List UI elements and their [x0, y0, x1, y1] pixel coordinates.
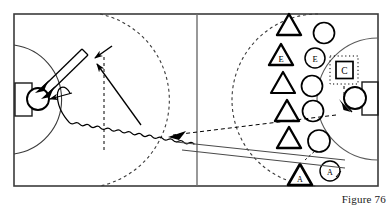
triangle-marker-6-A: A	[288, 164, 312, 185]
circle-label-A: A	[327, 168, 333, 177]
dribble-arrowhead	[95, 46, 112, 58]
triangle-label-A: A	[297, 175, 303, 184]
circle-marker-3	[302, 76, 323, 97]
left-shooting-circle-dashed	[100, 14, 169, 186]
circle-marker-1	[314, 23, 335, 44]
triangle-marker-1	[277, 14, 301, 35]
triangle-marker-4	[275, 100, 299, 121]
circle-label-E: E	[312, 54, 317, 64]
coach-box: C	[330, 56, 358, 84]
coach-label: C	[341, 66, 347, 76]
triangle-marker-5	[277, 127, 301, 148]
right-goalkeeper	[344, 87, 366, 109]
circle-marker-6-A: A	[320, 161, 340, 181]
figure-caption: Figure 76	[342, 193, 386, 205]
circle-marker-5	[308, 130, 330, 152]
figure-container: E A E	[0, 0, 392, 207]
triangle-label-E: E	[278, 54, 283, 64]
triangle-marker-3	[271, 72, 295, 93]
triangle-marker-2-E: E	[269, 44, 293, 65]
circle-marker-2-E: E	[305, 48, 325, 68]
tactical-diagram: E A E	[0, 0, 392, 207]
